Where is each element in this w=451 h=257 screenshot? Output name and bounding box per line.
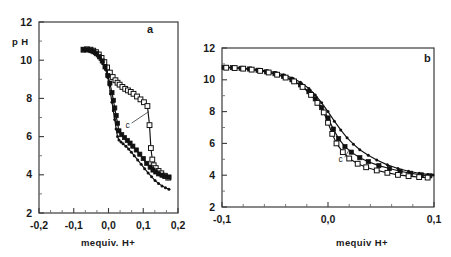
annotation-leader-a xyxy=(132,112,149,123)
marker-open-square xyxy=(150,157,155,162)
series-line-a-filled-square xyxy=(83,50,168,177)
x-tick-label-a-0: -0,2 xyxy=(30,219,48,231)
marker-open-square xyxy=(224,65,229,70)
marker-open-square xyxy=(145,104,150,109)
marker-small-dot xyxy=(346,136,349,139)
marker-small-dot xyxy=(124,145,127,148)
y-tick-label-b-4: 4 xyxy=(209,169,215,181)
marker-small-dot xyxy=(327,110,330,113)
marker-open-square xyxy=(326,120,331,125)
marker-open-square xyxy=(406,174,411,179)
x-tick-label-b-0: -0,1 xyxy=(213,213,231,225)
marker-open-square xyxy=(385,170,390,175)
marker-open-square xyxy=(283,75,288,80)
y-tick-label-b-12: 12 xyxy=(203,42,215,54)
marker-small-dot xyxy=(93,51,96,54)
marker-open-square xyxy=(374,168,379,173)
marker-small-dot xyxy=(110,101,113,104)
marker-small-dot xyxy=(83,48,86,51)
marker-small-dot xyxy=(154,179,157,182)
marker-open-square xyxy=(241,66,246,71)
marker-open-square xyxy=(300,85,305,90)
x-tick-label-a-1: -0,1 xyxy=(65,219,83,231)
y-tick-label-a-4: 4 xyxy=(26,168,32,180)
annotation-label-b: c xyxy=(339,154,344,164)
y-tick-label-a-6: 6 xyxy=(26,130,32,142)
marker-open-square xyxy=(258,68,263,73)
x-tick-label-a-4: 0,2 xyxy=(171,219,186,231)
marker-small-dot xyxy=(320,101,323,104)
marker-open-square xyxy=(266,70,271,75)
marker-filled-square xyxy=(349,150,353,154)
figure-titration-curves: · · · 12108642-0,2-0,10,00,10,2p Hmequiv… xyxy=(0,0,451,257)
marker-open-square xyxy=(334,141,339,146)
marker-small-dot xyxy=(147,171,150,174)
x-tick-label-a-2: 0,0 xyxy=(101,219,116,231)
marker-small-dot xyxy=(333,120,336,123)
marker-filled-square xyxy=(377,164,381,168)
marker-filled-square xyxy=(167,175,171,179)
cut-caption-fragment: · · · xyxy=(10,0,210,4)
marker-filled-square xyxy=(134,148,138,152)
x-tick-label-a-3: 0,1 xyxy=(136,219,151,231)
marker-small-dot xyxy=(109,92,112,95)
marker-open-square xyxy=(292,79,297,84)
marker-open-square xyxy=(417,175,422,180)
marker-open-square xyxy=(355,161,360,166)
marker-open-square xyxy=(148,146,153,151)
marker-filled-square xyxy=(337,137,341,141)
marker-small-dot xyxy=(157,182,160,185)
y-tick-label-b-6: 6 xyxy=(209,137,215,149)
marker-small-dot xyxy=(112,109,115,112)
y-tick-label-a-2: 2 xyxy=(26,207,32,219)
marker-open-square xyxy=(249,67,254,72)
chart-canvas: 12108642-0,2-0,10,00,10,2p Hmequiv. H+ac… xyxy=(0,0,451,257)
marker-small-dot xyxy=(358,148,361,151)
marker-open-square xyxy=(330,131,335,136)
panel-b: 12108642-0,10,00,1mequiv H+bc xyxy=(203,42,441,248)
y-tick-label-b-8: 8 xyxy=(209,105,215,117)
marker-small-dot xyxy=(113,118,116,121)
marker-small-dot xyxy=(386,163,389,166)
panel-label-b: b xyxy=(424,52,431,64)
marker-small-dot xyxy=(90,50,93,53)
marker-small-dot xyxy=(122,142,125,145)
marker-small-dot xyxy=(106,76,109,79)
marker-small-dot xyxy=(101,62,104,65)
marker-filled-square xyxy=(366,160,370,164)
marker-filled-square xyxy=(331,127,335,131)
marker-small-dot xyxy=(140,163,143,166)
marker-small-dot xyxy=(314,93,317,96)
marker-small-dot xyxy=(161,184,164,187)
series-line-a-open-square xyxy=(83,49,168,177)
y-tick-label-a-8: 8 xyxy=(26,92,32,104)
marker-small-dot xyxy=(136,158,139,161)
marker-open-square xyxy=(275,72,280,77)
marker-open-square xyxy=(232,66,237,71)
marker-filled-square xyxy=(138,152,142,156)
x-axis-title-b: mequiv H+ xyxy=(336,237,388,248)
marker-small-dot xyxy=(108,84,111,87)
marker-open-square xyxy=(396,172,401,177)
marker-small-dot xyxy=(96,53,99,56)
marker-open-square xyxy=(364,165,369,170)
marker-small-dot xyxy=(127,148,130,151)
marker-filled-square xyxy=(141,156,145,160)
marker-small-dot xyxy=(367,154,370,157)
marker-small-dot xyxy=(87,48,90,51)
marker-small-dot xyxy=(167,188,170,191)
marker-small-dot xyxy=(115,127,118,130)
marker-open-square xyxy=(315,100,320,105)
marker-filled-square xyxy=(343,144,347,148)
marker-open-square xyxy=(309,93,314,98)
marker-small-dot xyxy=(375,159,378,162)
y-tick-label-a-10: 10 xyxy=(20,54,32,66)
marker-small-dot xyxy=(150,175,153,178)
x-tick-label-b-2: 0,1 xyxy=(427,213,442,225)
y-tick-label-b-2: 2 xyxy=(209,201,215,213)
plot-frame-a xyxy=(39,22,178,213)
y-axis-title-a: p H xyxy=(12,36,29,47)
marker-small-dot xyxy=(143,167,146,170)
marker-small-dot xyxy=(130,151,133,154)
marker-small-dot xyxy=(116,135,119,138)
